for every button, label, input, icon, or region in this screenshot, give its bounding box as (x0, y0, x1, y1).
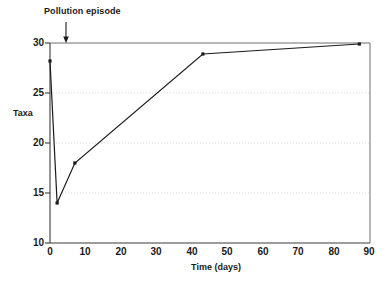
chart-figure: Pollution episode Taxa Time (days) 30 25… (0, 0, 388, 287)
y-axis-ticks (45, 43, 50, 243)
pollution-episode-arrow (63, 22, 69, 43)
data-point-0 (48, 59, 51, 62)
data-point-2 (56, 201, 59, 204)
data-point-7 (73, 161, 76, 164)
arrow-head-icon (63, 37, 69, 44)
plot-canvas (0, 0, 388, 287)
data-series-line (50, 44, 359, 203)
data-markers (48, 42, 361, 204)
data-point-87 (358, 42, 361, 45)
data-point-43 (201, 52, 204, 55)
